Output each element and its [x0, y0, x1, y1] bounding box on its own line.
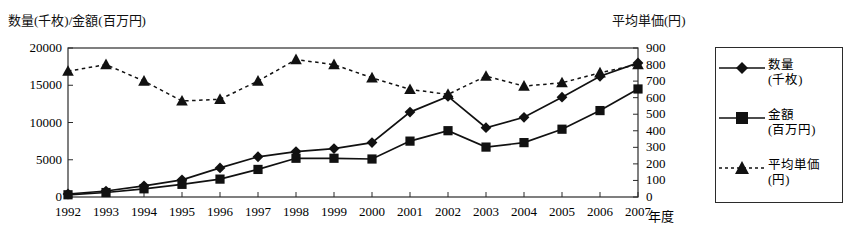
data-point-square	[519, 138, 528, 147]
legend-label-amount: 金額 (百万円)	[768, 106, 815, 138]
data-point-square	[291, 154, 300, 163]
legend-label-quantity: 数量 (千枚)	[768, 56, 802, 88]
left-tick-label: 10000	[6, 116, 62, 129]
legend-item-quantity: 数量 (千枚)	[716, 56, 842, 96]
right-tick-label: 0	[646, 190, 686, 203]
legend-item-amount: 金額 (百万円)	[716, 106, 842, 146]
x-tick-label: 1994	[124, 205, 164, 218]
data-point-square	[405, 137, 414, 146]
data-point-square	[101, 188, 110, 197]
data-point-square	[177, 180, 186, 189]
right-tick-label: 100	[646, 173, 686, 186]
right-tick-label: 800	[646, 58, 686, 71]
left-tick-label: 20000	[6, 41, 62, 54]
right-tick-label: 500	[646, 107, 686, 120]
x-tick-label: 1995	[162, 205, 202, 218]
x-tick-label: 2003	[466, 205, 506, 218]
legend-item-unitprice: 平均単価 (円)	[716, 156, 842, 196]
x-tick-label: 1999	[314, 205, 354, 218]
legend-sample-square	[716, 106, 768, 140]
x-tick-label: 1993	[86, 205, 126, 218]
x-tick-label: 2001	[390, 205, 430, 218]
right-tick-label: 700	[646, 74, 686, 87]
x-tick-label: 2005	[542, 205, 582, 218]
data-point-square	[253, 165, 262, 174]
left-tick-label: 15000	[6, 78, 62, 91]
x-tick-label: 1997	[238, 205, 278, 218]
right-tick-label: 600	[646, 91, 686, 104]
x-tick-label: 2007	[618, 205, 658, 218]
x-tick-label: 2004	[504, 205, 544, 218]
x-tick-label: 2002	[428, 205, 468, 218]
x-tick-label: 1998	[276, 205, 316, 218]
right-axis-title: 平均単価(円)	[612, 14, 686, 27]
data-point-square	[443, 126, 452, 135]
data-point-square	[557, 125, 566, 134]
legend-label-unitprice-line2: (円)	[768, 173, 820, 188]
plot-frame	[68, 48, 638, 197]
right-tick-label: 200	[646, 157, 686, 170]
x-tick-label: 1992	[48, 205, 88, 218]
data-point-square	[139, 184, 148, 193]
legend-label-quantity-line1: 数量	[768, 58, 802, 73]
right-tick-label: 300	[646, 140, 686, 153]
legend-label-unitprice-line1: 平均単価	[768, 158, 820, 173]
left-tick-label: 0	[6, 190, 62, 203]
legend-label-unitprice: 平均単価 (円)	[768, 156, 820, 188]
data-point-square	[63, 190, 72, 199]
legend-sample-diamond	[716, 56, 768, 90]
data-point-square	[481, 142, 490, 151]
x-tick-label: 1996	[200, 205, 240, 218]
right-tick-label: 400	[646, 124, 686, 137]
chart-legend: 数量 (千枚) 金額 (百万円)	[715, 47, 843, 203]
data-point-square	[595, 106, 604, 115]
legend-label-amount-line1: 金額	[768, 108, 815, 123]
legend-label-amount-line2: (百万円)	[768, 123, 815, 138]
data-point-square	[329, 154, 338, 163]
x-tick-label: 2006	[580, 205, 620, 218]
left-tick-label: 5000	[6, 153, 62, 166]
data-point-square	[367, 154, 376, 163]
left-axis-title: 数量(千枚)/金額(百万円)	[8, 14, 146, 27]
data-point-square	[633, 84, 642, 93]
chart-figure: 数量(千枚)/金額(百万円) 平均単価(円) 年度 05000100001500…	[0, 0, 852, 239]
x-tick-label: 2000	[352, 205, 392, 218]
data-point-square	[215, 175, 224, 184]
legend-sample-triangle	[716, 156, 768, 190]
right-tick-label: 900	[646, 41, 686, 54]
legend-label-quantity-line2: (千枚)	[768, 73, 802, 88]
